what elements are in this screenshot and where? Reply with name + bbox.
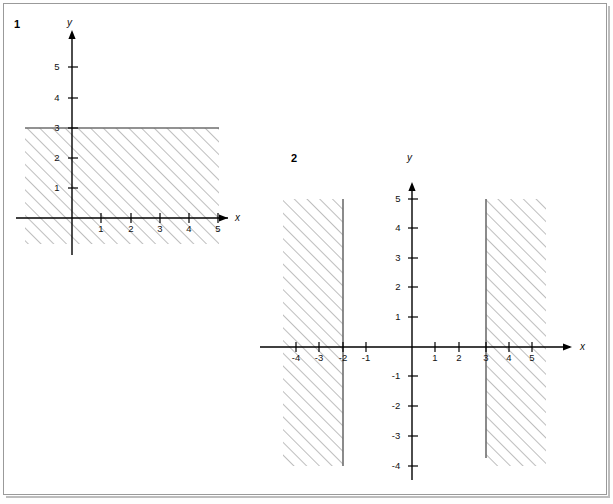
figure-2-ytick-neg1: -1 (387, 370, 405, 381)
figure-1-ytick-5: 5 (51, 61, 63, 72)
figure-2-xtick-neg2: -2 (335, 352, 351, 363)
figure-1-ytick-2: 2 (51, 152, 63, 163)
figure-2-xtick-5: 5 (526, 352, 538, 363)
figure-2-y-axis-label: y (407, 152, 412, 163)
figure-2-xtick-neg1: -1 (358, 352, 374, 363)
figure-2-xtick-2: 2 (453, 352, 465, 363)
figure-2-y-axis (408, 182, 415, 480)
figure-2: 2 (260, 140, 613, 504)
figure-1-ytick-4: 4 (51, 92, 63, 103)
figure-2-ytick-4: 4 (391, 222, 405, 233)
figure-2-ytick-neg3: -3 (387, 430, 405, 441)
figure-2-ytick-1: 1 (391, 311, 405, 322)
figure-2-xtick-neg4: -4 (288, 352, 304, 363)
figure-1: 1 (0, 0, 300, 270)
figure-2-ytick-neg4: -4 (387, 460, 405, 471)
figure-1-xtick-5: 5 (212, 223, 224, 234)
worksheet-page: 1 (0, 0, 613, 504)
figure-2-y-ticks (408, 199, 418, 466)
figure-1-canvas (0, 0, 300, 270)
figure-2-x-axis-label: x (580, 341, 585, 352)
figure-2-shaded-region-right (486, 199, 546, 466)
figure-2-xtick-3: 3 (480, 352, 492, 363)
figure-2-shaded-region-left (283, 199, 343, 466)
figure-1-y-axis-label: y (67, 17, 72, 28)
figure-1-xtick-3: 3 (154, 223, 166, 234)
figure-1-xtick-1: 1 (95, 223, 107, 234)
figure-1-x-axis-label: x (235, 212, 240, 223)
figure-2-ytick-3: 3 (391, 252, 405, 263)
figure-2-xtick-4: 4 (503, 352, 515, 363)
figure-1-ytick-1: 1 (51, 182, 63, 193)
figure-2-xtick-neg3: -3 (311, 352, 327, 363)
figure-2-ytick-2: 2 (391, 281, 405, 292)
figure-1-xtick-2: 2 (125, 223, 137, 234)
figure-2-ytick-5: 5 (391, 193, 405, 204)
figure-1-xtick-4: 4 (183, 223, 195, 234)
figure-1-ytick-3: 3 (51, 122, 63, 133)
figure-2-ytick-neg2: -2 (387, 400, 405, 411)
figure-2-xtick-1: 1 (429, 352, 441, 363)
figure-2-canvas (260, 140, 613, 504)
